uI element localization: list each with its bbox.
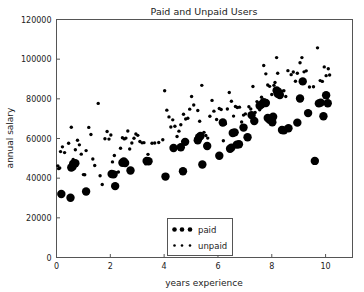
data-point-unpaid [74, 148, 77, 151]
data-point-unpaid [312, 85, 315, 88]
data-point-unpaid [251, 85, 254, 88]
data-point-unpaid [128, 147, 131, 150]
data-point-paid [169, 144, 177, 152]
legend-marker-paid [180, 227, 185, 232]
x-tick-label: 4 [162, 262, 167, 271]
data-point-unpaid [97, 102, 100, 105]
data-point-unpaid [67, 142, 70, 145]
data-point-unpaid [70, 125, 73, 128]
data-point-unpaid [98, 174, 101, 177]
data-point-unpaid [286, 69, 289, 72]
data-point-paid [235, 140, 243, 148]
data-point-unpaid [59, 150, 62, 153]
data-point-unpaid [111, 160, 114, 163]
data-point-unpaid [230, 100, 233, 103]
y-tick-label: 120000 [21, 16, 52, 25]
data-point-unpaid [196, 109, 199, 112]
legend-marker-paid [188, 227, 193, 232]
data-point-unpaid [169, 125, 172, 128]
data-point-unpaid [136, 134, 139, 137]
data-point-paid [215, 152, 223, 160]
data-point-unpaid [163, 89, 166, 92]
data-point-unpaid [132, 137, 135, 140]
data-point-unpaid [232, 114, 235, 117]
data-point-paid [319, 112, 327, 120]
data-point-unpaid [165, 108, 168, 111]
data-point-unpaid [305, 69, 308, 72]
data-point-unpaid [276, 72, 279, 75]
data-point-unpaid [91, 157, 94, 160]
data-point-paid [196, 132, 204, 140]
data-point-unpaid [76, 139, 79, 142]
data-point-paid [324, 99, 332, 107]
data-point-unpaid [161, 138, 164, 141]
data-point-unpaid [240, 120, 243, 123]
legend-marker-unpaid [181, 244, 184, 247]
x-tick-label: 10 [320, 262, 330, 271]
data-point-unpaid [300, 56, 303, 59]
data-point-unpaid [58, 166, 61, 169]
data-point-unpaid [175, 135, 178, 138]
data-point-paid [293, 118, 301, 126]
data-point-unpaid [238, 105, 241, 108]
data-point-unpaid [208, 115, 211, 118]
data-point-paid [179, 167, 187, 175]
data-point-unpaid [212, 109, 215, 112]
data-point-unpaid [249, 107, 252, 110]
data-point-paid [181, 138, 189, 146]
data-point-unpaid [282, 89, 285, 92]
data-point-unpaid [324, 74, 327, 77]
data-point-unpaid [264, 72, 267, 75]
y-axis-label: annual salary [5, 107, 15, 168]
data-point-paid [276, 91, 284, 99]
legend[interactable]: paid unpaid [168, 219, 233, 256]
data-point-paid [57, 190, 65, 198]
data-point-unpaid [188, 107, 191, 110]
data-point-unpaid [192, 103, 195, 106]
x-axis-label: years experience [165, 278, 243, 288]
data-point-unpaid [84, 149, 87, 152]
data-point-unpaid [182, 113, 185, 116]
data-point-paid [219, 118, 227, 126]
x-tick-label: 8 [269, 262, 274, 271]
data-point-paid [296, 94, 304, 102]
data-point-paid [239, 123, 247, 131]
x-tick-label: 2 [108, 262, 113, 271]
data-point-paid [262, 99, 270, 107]
y-tick-label: 40000 [26, 174, 51, 183]
data-point-unpaid [61, 145, 64, 148]
data-point-unpaid [186, 117, 189, 120]
data-point-unpaid [298, 61, 301, 64]
data-point-unpaid [124, 136, 127, 139]
data-point-unpaid [80, 152, 83, 155]
data-point-unpaid [177, 129, 180, 132]
y-tick-label: 80000 [26, 95, 51, 104]
data-point-unpaid [222, 139, 225, 142]
data-point-unpaid [323, 65, 326, 68]
data-point-unpaid [63, 151, 66, 154]
data-point-paid [203, 142, 211, 150]
data-point-unpaid [109, 133, 112, 136]
y-tick-label: 20000 [26, 214, 51, 223]
legend-label-unpaid: unpaid [198, 241, 227, 251]
data-point-paid [109, 170, 117, 178]
data-point-unpaid [89, 133, 92, 136]
data-point-unpaid [321, 80, 324, 83]
figure-canvas: 020000400006000080000100000120000 024681… [0, 0, 364, 292]
data-point-unpaid [101, 183, 104, 186]
data-point-unpaid [273, 81, 276, 84]
y-tick-label: 60000 [26, 135, 51, 144]
data-point-paid [311, 157, 319, 165]
data-point-unpaid [103, 137, 106, 140]
data-point-unpaid [270, 93, 273, 96]
data-point-unpaid [316, 46, 319, 49]
data-point-paid [230, 128, 238, 136]
data-point-unpaid [126, 129, 129, 132]
data-point-unpaid [226, 107, 229, 110]
data-point-paid [198, 160, 206, 168]
chart-title: Paid and Unpaid Users [151, 6, 258, 17]
data-point-unpaid [93, 164, 96, 167]
data-point-unpaid [198, 120, 201, 123]
data-point-unpaid [107, 137, 110, 140]
data-point-unpaid [284, 95, 287, 98]
